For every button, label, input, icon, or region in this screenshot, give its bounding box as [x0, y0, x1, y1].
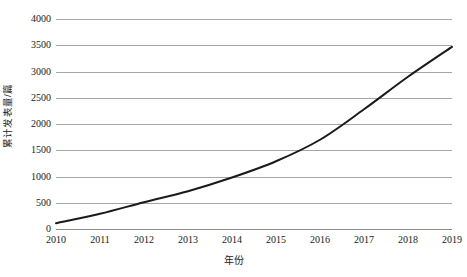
x-axis-tick-labels: 2010201120122013201420152016201720182019 [56, 234, 452, 250]
y-tick-label-3000: 3000 [31, 67, 51, 77]
y-tick-label-500: 500 [36, 198, 51, 208]
y-tick-label-1500: 1500 [31, 145, 51, 155]
x-tick-label-2017: 2017 [354, 234, 374, 246]
series-layer [56, 19, 452, 229]
y-axis-title: 累计发表量/篇 [0, 0, 14, 232]
x-tick-label-2012: 2012 [134, 234, 154, 246]
gridline-0 [56, 229, 452, 230]
y-tick-label-4000: 4000 [31, 14, 51, 24]
x-tick-label-2018: 2018 [398, 234, 418, 246]
x-tick-label-2015: 2015 [266, 234, 286, 246]
y-tick-label-2500: 2500 [31, 93, 51, 103]
y-tick-label-1000: 1000 [31, 172, 51, 182]
x-axis-title-text: 年份 [224, 255, 244, 266]
x-tick-label-2010: 2010 [46, 234, 66, 246]
y-tick-label-3500: 3500 [31, 40, 51, 50]
y-tick-label-2000: 2000 [31, 119, 51, 129]
series-line-cumulative-publications [56, 47, 452, 223]
y-axis-tick-labels: 40003500300025002000150010005000 [14, 0, 54, 240]
x-tick-label-2013: 2013 [178, 234, 198, 246]
y-axis-title-text: 累计发表量/篇 [0, 84, 14, 148]
y-tick-label-0: 0 [46, 224, 51, 234]
plot-area [56, 19, 452, 229]
x-tick-label-2014: 2014 [222, 234, 242, 246]
line-chart: 累计发表量/篇 40003500300025002000150010005000… [0, 0, 467, 277]
x-axis-title: 年份 [0, 252, 467, 267]
x-tick-label-2016: 2016 [310, 234, 330, 246]
x-tick-label-2011: 2011 [90, 234, 110, 246]
x-tick-label-2019: 2019 [442, 234, 462, 246]
